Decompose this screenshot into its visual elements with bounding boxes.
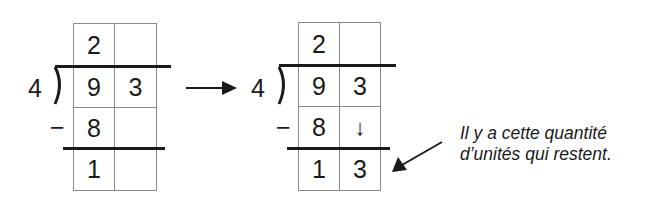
dividend-units: 3 [115,67,156,108]
dividend-tens: 9 [299,66,340,107]
quotient-units [115,24,156,67]
remainder-tens: 1 [299,149,340,190]
bring-down-arrow-icon: ↓ [340,107,380,149]
division-bracket-icon [276,66,290,106]
remainder-units: 3 [340,149,380,190]
subtract-sign: − [50,115,65,140]
quotient-tens: 2 [299,23,340,66]
right-arrow-icon [186,80,238,96]
subtraction-bar [287,147,390,150]
annotation-text: Il y a cette quantité d’unités qui reste… [460,123,612,165]
digit-grid: 2 9 3 8 1 [73,23,157,191]
quotient-units [340,23,380,66]
pointer-arrow-icon [390,140,446,174]
division-bracket-icon [52,66,66,106]
division-bar [279,64,396,67]
subtrahend-units [115,108,156,149]
subtract-sign: − [276,115,291,140]
subtrahend-tens: 8 [299,107,340,149]
subtraction-bar [63,147,165,150]
divisor: 4 [28,76,42,101]
quotient-tens: 2 [74,24,115,67]
dividend-tens: 9 [74,67,115,108]
dividend-units: 3 [340,66,380,107]
divisor: 4 [251,76,265,101]
digit-grid: 2 9 3 8 ↓ 1 3 [298,22,381,191]
annotation-line-2: d’unités qui restent. [460,144,612,165]
subtrahend-tens: 8 [74,108,115,149]
remainder-tens: 1 [74,149,115,190]
annotation-line-1: Il y a cette quantité [460,123,612,144]
remainder-units [115,149,156,190]
division-bar [55,65,171,68]
